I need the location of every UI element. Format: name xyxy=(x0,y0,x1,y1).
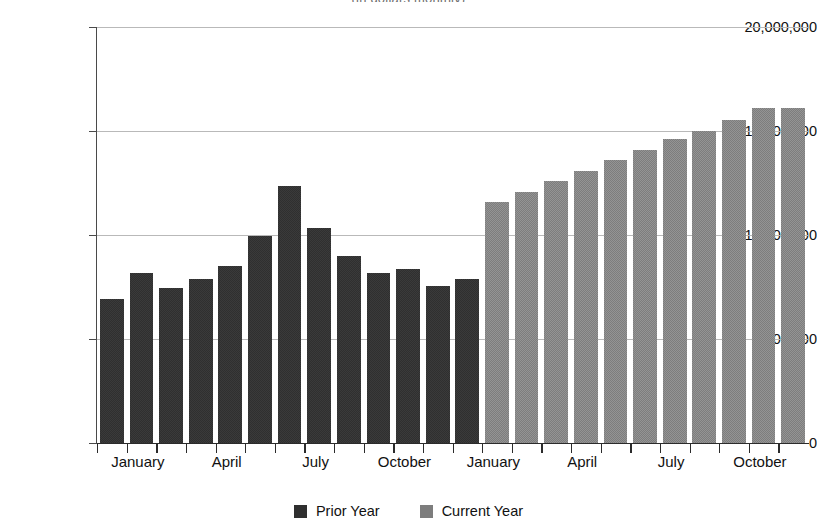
plot-area xyxy=(97,27,808,443)
x-tick-mark xyxy=(245,444,246,453)
bar xyxy=(781,108,805,443)
x-tick-mark xyxy=(275,444,276,453)
bar xyxy=(544,181,568,443)
x-tick-mark xyxy=(216,444,217,453)
bar xyxy=(692,131,716,443)
y-tick-mark xyxy=(89,131,97,132)
bar xyxy=(396,269,420,443)
y-tick-mark xyxy=(89,27,97,28)
bar xyxy=(307,228,331,443)
x-tick-mark xyxy=(601,444,602,453)
bar xyxy=(663,139,687,443)
bar xyxy=(485,202,509,443)
x-tick-mark xyxy=(364,444,365,453)
x-tick-mark xyxy=(571,444,572,453)
bar xyxy=(367,273,391,443)
gridline xyxy=(97,27,808,28)
bar xyxy=(604,160,628,443)
x-tick-mark xyxy=(512,444,513,453)
bar xyxy=(278,186,302,443)
legend-item[interactable]: Prior Year xyxy=(294,503,380,519)
bar xyxy=(189,279,213,443)
y-tick-mark xyxy=(89,235,97,236)
x-tick-mark xyxy=(334,444,335,453)
bar xyxy=(515,192,539,443)
legend-swatch-icon xyxy=(294,505,307,518)
bar xyxy=(159,288,183,443)
chart-legend: Prior YearCurrent Year xyxy=(0,503,817,519)
x-tick-mark xyxy=(423,444,424,453)
chart-title: (in dollars monthly) xyxy=(0,0,817,2)
legend-label: Current Year xyxy=(442,503,523,519)
x-tick-mark xyxy=(778,444,779,453)
bar xyxy=(633,150,657,443)
x-tick-mark xyxy=(541,444,542,453)
bar-chart: (in dollars monthly) 05,000,00010,000,00… xyxy=(0,0,817,529)
x-tick-mark xyxy=(453,444,454,453)
bar xyxy=(455,279,479,443)
x-axis-tick-label: July xyxy=(658,453,685,470)
bar xyxy=(218,266,242,443)
bar xyxy=(130,273,154,443)
bar xyxy=(100,299,124,443)
x-axis-tick-label: January xyxy=(111,453,164,470)
x-tick-mark xyxy=(482,444,483,453)
bar xyxy=(722,120,746,443)
x-axis-tick-label: July xyxy=(302,453,329,470)
bar xyxy=(337,256,361,443)
x-tick-mark xyxy=(97,444,98,453)
x-tick-mark xyxy=(186,444,187,453)
x-tick-mark xyxy=(127,444,128,453)
x-axis-tick-label: April xyxy=(567,453,597,470)
y-tick-mark xyxy=(89,443,97,444)
x-tick-mark xyxy=(660,444,661,453)
x-tick-mark xyxy=(630,444,631,453)
bar xyxy=(426,286,450,443)
x-tick-mark xyxy=(690,444,691,453)
x-axis-tick-label: January xyxy=(467,453,520,470)
x-tick-mark xyxy=(393,444,394,453)
legend-item[interactable]: Current Year xyxy=(420,503,523,519)
x-axis-tick-label: October xyxy=(733,453,786,470)
y-tick-mark xyxy=(89,339,97,340)
x-tick-mark xyxy=(749,444,750,453)
legend-label: Prior Year xyxy=(316,503,380,519)
x-axis-tick-label: April xyxy=(212,453,242,470)
x-axis-tick-label: October xyxy=(378,453,431,470)
legend-swatch-icon xyxy=(420,505,433,518)
x-tick-mark xyxy=(304,444,305,453)
bar xyxy=(574,171,598,443)
bar xyxy=(248,236,272,443)
bar xyxy=(752,108,776,443)
x-tick-mark xyxy=(719,444,720,453)
x-tick-mark xyxy=(156,444,157,453)
